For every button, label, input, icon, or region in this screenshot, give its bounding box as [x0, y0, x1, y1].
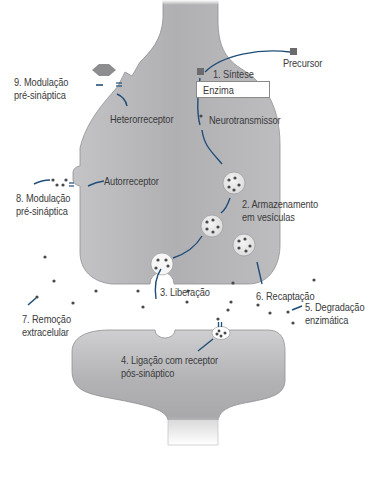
enzyme-box: Enzima: [196, 81, 270, 98]
vesicle-2: [201, 215, 223, 237]
label-storage-2: em vesículas: [242, 211, 295, 224]
label-binding-1: 4. Ligação com receptor: [121, 354, 218, 367]
postsynaptic-terminal: [72, 330, 285, 450]
label-hetero-modulation-1: 9. Modulação: [14, 76, 68, 89]
synapse-diagram: 9. Modulação pré-sináptica Heterorrecept…: [0, 0, 377, 485]
degradation-arrow: [292, 306, 302, 310]
label-degradation-1: 5. Degradação: [305, 301, 364, 314]
label-autoreceptor: Autorreceptor: [104, 175, 159, 188]
label-degradation-2: enzimática: [305, 314, 348, 327]
label-removal-2: extracelular: [22, 326, 69, 339]
label-release: 3. Liberação: [160, 286, 210, 299]
label-enzyme: Enzima: [203, 84, 234, 96]
label-auto-modulation-2: pré-sináptica: [16, 205, 68, 218]
synapse-illustration: [0, 0, 377, 485]
label-binding-2: pós-sináptico: [121, 367, 174, 380]
label-precursor: Precursor: [283, 57, 322, 70]
label-auto-modulation-1: 8. Modulação: [16, 192, 70, 205]
label-hetero-modulation-2: pré-sináptica: [14, 89, 66, 102]
label-synthesis: 1. Síntese: [213, 68, 254, 81]
label-removal-1: 7. Remoção: [22, 313, 71, 326]
label-heteroreceptor: Heterorreceptor: [110, 113, 173, 126]
label-neurotransmitter: Neurotransmissor: [209, 114, 281, 127]
vesicle-1: [223, 172, 245, 194]
vesicle-3: [233, 234, 255, 256]
postsynaptic-receptor: [212, 322, 230, 340]
label-storage-1: 2. Armazenamento: [242, 198, 318, 211]
removal-arrow: [28, 298, 36, 305]
